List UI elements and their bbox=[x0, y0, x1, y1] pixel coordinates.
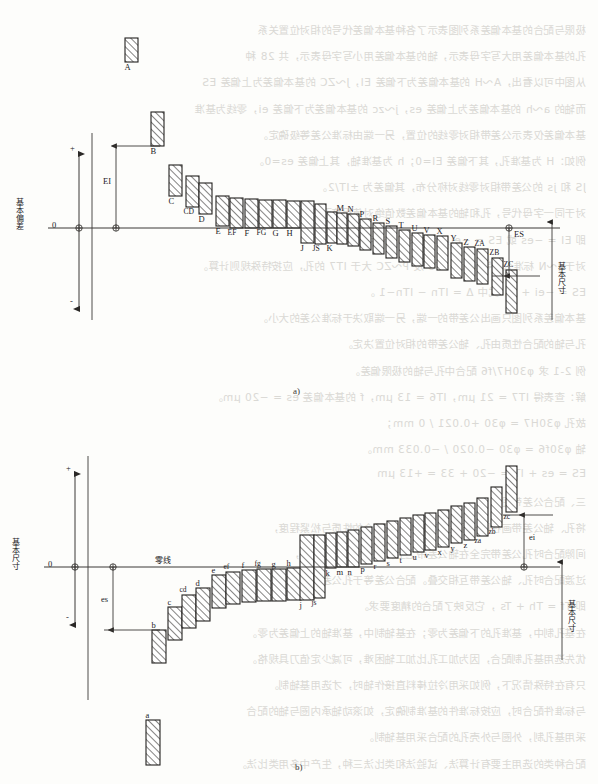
tolerance-zone-bar-label: t bbox=[400, 556, 402, 565]
figure-b-zero-line-label: 零线 bbox=[155, 557, 171, 565]
tolerance-zone-bar bbox=[216, 196, 229, 226]
tolerance-zone-bar-label: k bbox=[326, 569, 330, 578]
tolerance-zone-bar-label: d bbox=[196, 579, 200, 588]
tolerance-zone-bar-label: Y bbox=[451, 234, 457, 243]
tolerance-zone-bar-label: V bbox=[424, 226, 430, 235]
tolerance-zone-bar-label: z bbox=[464, 541, 468, 550]
tolerance-zone-bar bbox=[437, 236, 448, 270]
tolerance-zone-bar bbox=[451, 243, 462, 278]
figure-a-caption: a) bbox=[293, 386, 300, 396]
tolerance-zone-bar-label: C bbox=[169, 197, 175, 206]
tolerance-zone-bar-label: H bbox=[287, 229, 293, 238]
figure-a-minus-sign: - bbox=[70, 297, 73, 306]
tolerance-zone-bar bbox=[272, 569, 286, 601]
figure-b-es-label: es bbox=[101, 595, 108, 604]
figure-a-axis-label-basic-size: 基本尺寸 bbox=[556, 262, 564, 294]
tolerance-zone-bar bbox=[424, 235, 435, 268]
tolerance-zone-bar bbox=[464, 503, 475, 540]
tolerance-zone-bar-label: JS bbox=[313, 245, 320, 253]
tolerance-zone-bar bbox=[315, 204, 326, 244]
tolerance-zone-bar-label: cd bbox=[180, 586, 187, 594]
tolerance-zone-bar-label: n bbox=[348, 568, 352, 577]
tolerance-zone-bar-label: B bbox=[151, 147, 157, 156]
tolerance-zone-bar bbox=[212, 575, 226, 608]
tolerance-zone-bar bbox=[168, 607, 182, 640]
tolerance-zone-bar-label: e bbox=[212, 566, 216, 575]
tolerance-zone-bar-label: G bbox=[273, 229, 279, 238]
tolerance-zone-bar bbox=[259, 200, 272, 228]
tolerance-zone-bar bbox=[196, 588, 210, 621]
tolerance-zone-bar bbox=[451, 506, 462, 543]
tolerance-zone-bar-label: Z bbox=[464, 238, 469, 247]
tolerance-zone-bar bbox=[361, 527, 372, 564]
tolerance-zone-bar-label: M bbox=[337, 204, 345, 213]
tolerance-zone-bar bbox=[348, 214, 359, 246]
figure-a-EI-label: EI bbox=[103, 177, 111, 186]
tolerance-zone-bar-label: r bbox=[374, 562, 377, 571]
tolerance-zone-bar-label: g bbox=[272, 560, 276, 569]
tolerance-zone-bar-label: a bbox=[146, 711, 150, 720]
tolerance-zone-bar-label: D bbox=[199, 215, 205, 224]
tolerance-zone-bar-label: x bbox=[438, 548, 442, 557]
tolerance-zone-bar bbox=[464, 247, 475, 281]
tolerance-zone-bar bbox=[413, 515, 424, 552]
tolerance-zone-bar bbox=[186, 176, 199, 207]
tolerance-zone-bar-label: c bbox=[168, 598, 172, 607]
tolerance-zone-bar bbox=[506, 466, 517, 512]
tolerance-zone-bar-label: ZB bbox=[490, 249, 500, 257]
tolerance-zone-bar bbox=[400, 518, 411, 555]
tolerance-zone-bar-label: u bbox=[413, 553, 417, 562]
figure-a-ES-label: ES bbox=[514, 230, 524, 239]
tolerance-zone-bar-label: m bbox=[337, 568, 344, 577]
tolerance-zone-bars bbox=[125, 38, 517, 765]
tolerance-zone-bar bbox=[199, 183, 212, 214]
tolerance-zone-bar bbox=[477, 249, 488, 284]
figure-a-plus-sign: + bbox=[70, 144, 75, 153]
tolerance-zone-bar bbox=[438, 510, 449, 547]
tolerance-zone-bar-label: F bbox=[245, 229, 250, 238]
tolerance-zone-bar-label: P bbox=[360, 210, 365, 219]
tolerance-zone-bar bbox=[230, 198, 243, 228]
tolerance-zone-bar-label: za bbox=[475, 537, 482, 545]
tolerance-zone-bar bbox=[399, 230, 410, 262]
tolerance-zone-bar-label: EF bbox=[228, 229, 237, 237]
tolerance-zone-bar-label: b bbox=[152, 621, 156, 630]
tolerance-zone-bar bbox=[491, 487, 502, 527]
tolerance-zone-bar-label: J bbox=[301, 244, 304, 253]
tolerance-zone-bar-label: p bbox=[361, 565, 365, 574]
figure-b-caption: b) bbox=[295, 762, 303, 772]
tolerance-zone-bar-label: zc bbox=[504, 513, 511, 521]
tolerance-zone-bar-label: N bbox=[348, 205, 354, 214]
tolerance-zone-bar bbox=[151, 112, 164, 146]
tolerance-zone-bar bbox=[492, 258, 503, 295]
tolerance-zone-bar-label: T bbox=[399, 221, 404, 230]
tolerance-zone-bar bbox=[242, 570, 256, 602]
tolerance-zone-bar bbox=[337, 532, 347, 567]
tolerance-zone-bar-label: E bbox=[216, 227, 221, 236]
tolerance-zone-bar-label: y bbox=[451, 544, 455, 553]
tolerance-zone-bar-label: js bbox=[312, 599, 317, 607]
tolerance-zone-bar bbox=[374, 524, 385, 561]
tolerance-zone-bar bbox=[146, 720, 160, 765]
tolerance-zone-bar bbox=[477, 498, 488, 536]
tolerance-zone-bar bbox=[152, 630, 166, 663]
tolerance-zone-bar bbox=[301, 201, 314, 243]
tolerance-zone-bar-label: R bbox=[373, 214, 379, 223]
tolerance-zone-bar-label: X bbox=[437, 227, 443, 236]
tolerance-zone-bar bbox=[182, 595, 196, 628]
tolerance-zone-bar bbox=[506, 270, 517, 313]
figure-b-axis-label-basic-size-left: 基本尺寸 bbox=[10, 538, 18, 570]
tolerance-zone-bar bbox=[169, 165, 182, 196]
tolerance-zone-bar-label: FG bbox=[257, 229, 267, 237]
tolerance-zone-bar bbox=[387, 521, 398, 558]
tolerance-zone-bar-label: ef bbox=[224, 563, 230, 571]
tolerance-zone-bar-label: f bbox=[242, 561, 245, 570]
tolerance-zone-bar bbox=[125, 38, 138, 62]
tolerance-zone-bar bbox=[348, 530, 359, 567]
tolerance-zone-bar-label: ZA bbox=[475, 240, 485, 248]
figure-b-axis-label-basic-size-right: 基本尺寸 bbox=[566, 600, 574, 632]
tolerance-zone-bar bbox=[257, 569, 271, 601]
tolerance-zone-bar bbox=[287, 568, 301, 600]
tolerance-zone-bar-label: v bbox=[425, 551, 429, 560]
tolerance-zone-bar-label: S bbox=[386, 217, 391, 226]
